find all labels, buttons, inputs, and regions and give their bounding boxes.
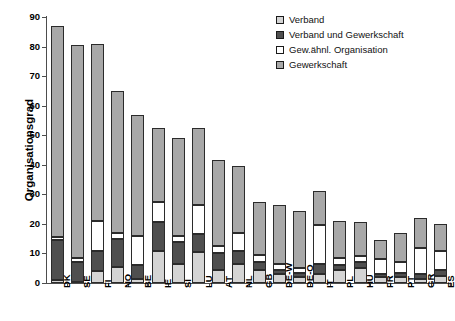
- bar-segment: [253, 255, 266, 262]
- x-tick-label: ES: [445, 275, 455, 288]
- bar-segment: [192, 205, 205, 235]
- bar-stack: [374, 17, 387, 283]
- x-tick-label: SE: [81, 275, 92, 288]
- bar-segment: [232, 251, 245, 264]
- y-tick-label: 40: [0, 159, 40, 170]
- x-tick-label: IE: [162, 279, 173, 288]
- bar-stack: [253, 17, 266, 283]
- bar-segment: [354, 262, 367, 268]
- bar-segment: [414, 248, 427, 275]
- x-tick-label: DK: [61, 274, 72, 288]
- bar-segment: [333, 221, 346, 258]
- bar-stack: [51, 17, 64, 283]
- y-tick-mark: [42, 47, 46, 48]
- chart-figure: Organisationsgrad VerbandVerband und Gew…: [0, 0, 455, 321]
- bar-segment: [313, 264, 326, 274]
- x-tick-label: BE: [142, 275, 153, 288]
- bar-segment: [91, 44, 104, 221]
- x-tick-label: GR: [425, 274, 436, 288]
- bar-segment: [71, 45, 84, 258]
- bar-segment: [51, 237, 64, 240]
- bar-stack: [394, 17, 407, 283]
- x-tick-label: SI: [182, 279, 193, 288]
- bar-stack: [212, 17, 225, 283]
- y-tick-mark: [42, 76, 46, 77]
- bar-segment: [253, 262, 266, 269]
- bar-segment: [111, 239, 124, 267]
- y-tick-mark: [42, 224, 46, 225]
- bar-segment: [51, 26, 64, 237]
- bar-segment: [111, 233, 124, 239]
- x-tick-label: DE-W: [283, 263, 294, 288]
- bar-stack: [91, 17, 104, 283]
- bar-segment: [91, 221, 104, 251]
- bar-segment: [192, 128, 205, 205]
- y-tick-label: 50: [0, 129, 40, 140]
- x-tick-label: FR: [384, 275, 395, 288]
- bar-stack: [354, 17, 367, 283]
- bar-segment: [212, 253, 225, 269]
- bar-stack: [273, 17, 286, 283]
- bar-stack: [111, 17, 124, 283]
- bar-segment: [313, 191, 326, 225]
- bar-segment: [273, 205, 286, 264]
- y-tick-label: 20: [0, 218, 40, 229]
- bar-segment: [152, 128, 165, 202]
- x-tick-label: PT: [405, 276, 416, 288]
- x-tick-label: AT: [223, 276, 234, 288]
- y-tick-mark: [42, 194, 46, 195]
- bar-segment: [212, 160, 225, 246]
- x-tick-label: GB: [263, 274, 274, 288]
- bar-segment: [232, 166, 245, 233]
- bar-stack: [232, 17, 245, 283]
- y-tick-label: 80: [0, 41, 40, 52]
- y-tick-label: 30: [0, 188, 40, 199]
- bar-stack: [172, 17, 185, 283]
- y-tick-label: 60: [0, 100, 40, 111]
- y-tick-mark: [42, 17, 46, 18]
- bar-segment: [354, 222, 367, 256]
- bar-stack: [192, 17, 205, 283]
- bar-segment: [131, 115, 144, 236]
- y-tick-label: 70: [0, 70, 40, 81]
- bar-segment: [172, 236, 185, 242]
- bar-segment: [414, 218, 427, 248]
- plot-area: [47, 17, 451, 283]
- bar-segment: [394, 233, 407, 263]
- bar-stack: [434, 17, 447, 283]
- bar-segment: [374, 240, 387, 259]
- x-tick-label: DE-O: [304, 264, 315, 288]
- bar-segment: [354, 256, 367, 262]
- bar-stack: [313, 17, 326, 283]
- y-tick-label: 90: [0, 11, 40, 22]
- y-tick-label: 10: [0, 247, 40, 258]
- bar-segment: [374, 259, 387, 274]
- bar-segment: [434, 251, 447, 270]
- x-tick-label: FI: [102, 280, 113, 288]
- bar-segment: [293, 211, 306, 269]
- y-axis-title: Organisationsgrad: [23, 65, 35, 235]
- x-tick-label: LU: [203, 275, 214, 288]
- bar-segment: [192, 234, 205, 252]
- bar-segment: [212, 246, 225, 253]
- bar-segment: [172, 242, 185, 264]
- y-tick-label: 0: [0, 277, 40, 288]
- bar-stack: [152, 17, 165, 283]
- bar-segment: [172, 138, 185, 236]
- bar-segment: [333, 258, 346, 265]
- bar-segment: [91, 251, 104, 272]
- x-tick-label: NL: [243, 275, 254, 288]
- bar-segment: [253, 202, 266, 255]
- bar-stack: [333, 17, 346, 283]
- bar-stack: [414, 17, 427, 283]
- x-tick-label: NO: [122, 274, 133, 288]
- bar-segment: [152, 202, 165, 223]
- y-tick-mark: [42, 135, 46, 136]
- bar-segment: [111, 91, 124, 233]
- bar-segment: [313, 225, 326, 263]
- y-tick-mark: [42, 253, 46, 254]
- x-tick-label: PL: [344, 276, 355, 288]
- y-tick-mark: [42, 283, 46, 284]
- bar-stack: [293, 17, 306, 283]
- x-tick-label: IT: [324, 280, 335, 288]
